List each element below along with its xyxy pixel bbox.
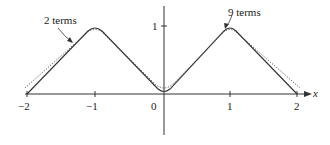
- x-tick-1: 1: [227, 101, 233, 112]
- annotation-2-terms: 2 terms: [44, 15, 77, 26]
- y-tick-1: 1: [152, 21, 158, 32]
- x-tick-0: 0: [151, 101, 157, 112]
- x-axis-arrow-icon: [304, 91, 312, 97]
- annotation-9-terms: 9 terms: [228, 7, 261, 18]
- x-tick-2: 2: [294, 101, 300, 112]
- series-9-terms: [25, 30, 300, 89]
- x-axis-label: x: [313, 88, 318, 99]
- x-tick-neg1: −1: [86, 101, 98, 112]
- x-tick-neg2: −2: [18, 101, 30, 112]
